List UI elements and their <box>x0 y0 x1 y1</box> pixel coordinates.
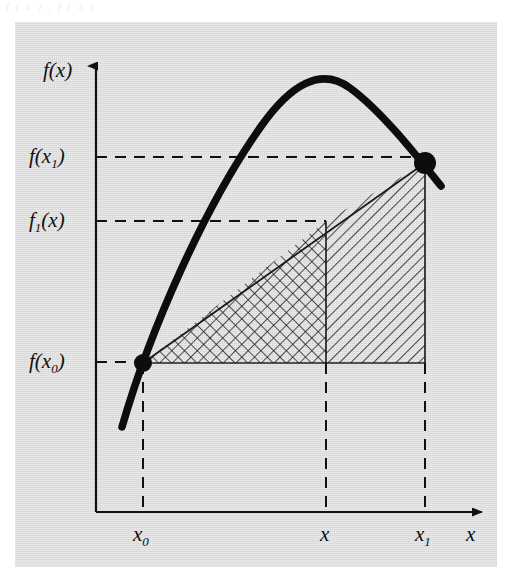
x-axis-label: x <box>466 524 475 545</box>
x-tick-label-x: x <box>320 524 329 545</box>
y-tick-label-f-x1: f(x1) <box>29 146 65 170</box>
y-tick-label-f-x0: f(x0) <box>29 351 65 375</box>
x-tick-label-x1: x1 <box>415 524 431 548</box>
y-axis-label: f(x) <box>43 60 72 81</box>
top-partial-text: f ( x ) , f ( x ) <box>0 0 518 14</box>
x-tick-label-x0: x0 <box>133 524 149 548</box>
y-tick-label-f1-x: f1(x) <box>29 210 65 234</box>
figure-panel <box>15 22 497 567</box>
